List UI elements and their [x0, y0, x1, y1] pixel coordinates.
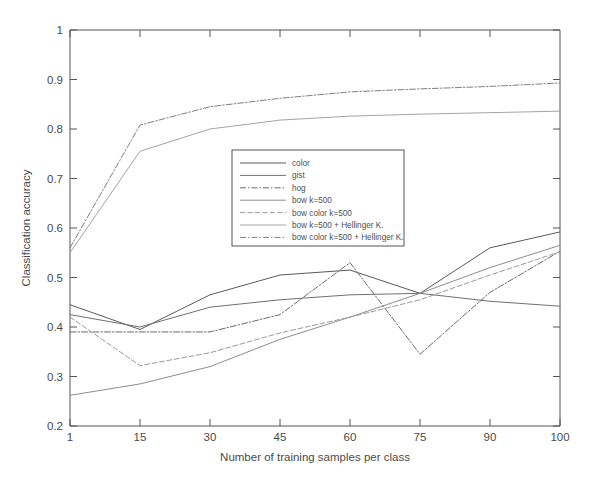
y-tick-label: 0.7 [47, 173, 63, 185]
x-axis-title: Number of training samples per class [220, 451, 410, 463]
y-tick-label: 0.3 [47, 371, 63, 383]
y-axis-title: Classification accuracy [20, 169, 32, 286]
legend-entry-label: bow color k=500 + Hellinger K. [292, 233, 404, 242]
y-tick-label: 0.6 [47, 222, 63, 234]
legend-entry-label: bow color k=500 [292, 209, 352, 218]
x-tick-label: 15 [134, 431, 147, 443]
x-tick-label: 75 [414, 431, 427, 443]
x-tick-label: 30 [204, 431, 217, 443]
legend-entry-label: bow k=500 + Hellinger K. [292, 221, 383, 230]
legend-entry-label: bow k=500 [292, 196, 332, 205]
y-tick-label: 0.9 [47, 74, 63, 86]
y-tick-label: 0.4 [47, 321, 64, 333]
y-tick-labels: 1 0.9 0.8 0.7 0.6 0.5 0.4 0.3 0.2 [47, 24, 64, 432]
y-tick-label: 0.8 [47, 123, 63, 135]
legend-entry-label: gist [292, 171, 305, 180]
y-tick-label: 0.2 [47, 420, 63, 432]
line-chart: 1 0.9 0.8 0.7 0.6 0.5 0.4 0.3 0.2 1 15 3… [0, 0, 600, 482]
x-tick-label: 1 [67, 431, 73, 443]
x-tick-label: 100 [550, 431, 569, 443]
legend-entry-label: color [292, 159, 310, 168]
y-tick-label: 0.5 [47, 272, 63, 284]
y-tick-label: 1 [57, 24, 63, 36]
legend-entry-label: hog [292, 184, 306, 193]
x-tick-label: 45 [274, 431, 287, 443]
x-tick-label: 90 [484, 431, 497, 443]
x-tick-label: 60 [344, 431, 357, 443]
chart-legend: colorgisthogbow k=500bow color k=500bow … [232, 150, 404, 246]
chart-figure: 1 0.9 0.8 0.7 0.6 0.5 0.4 0.3 0.2 1 15 3… [0, 0, 600, 482]
